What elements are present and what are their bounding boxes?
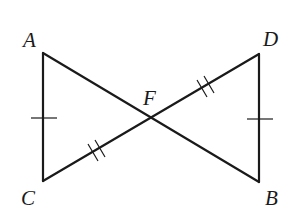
- label-d: D: [262, 27, 278, 51]
- label-a: A: [21, 28, 36, 52]
- label-c: C: [21, 186, 36, 210]
- label-f: F: [142, 86, 156, 110]
- geometry-diagram: A C F D B: [0, 0, 301, 215]
- label-b: B: [265, 186, 278, 210]
